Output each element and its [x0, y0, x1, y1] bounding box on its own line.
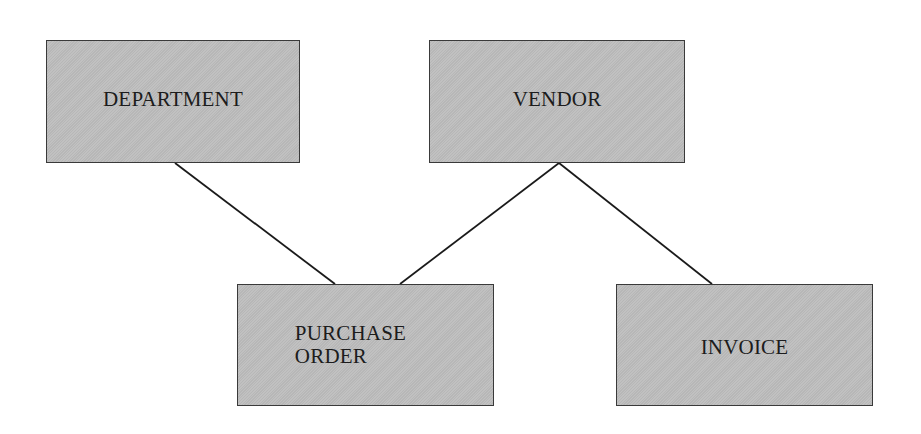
entity-invoice: INVOICE — [616, 284, 873, 406]
link-vendor-purchase-order — [400, 163, 559, 284]
er-diagram: DEPARTMENT VENDOR PURCHASE ORDER INVOICE — [0, 0, 921, 434]
entity-department: DEPARTMENT — [46, 40, 300, 163]
entity-label: DEPARTMENT — [103, 88, 243, 111]
entity-label: INVOICE — [701, 336, 789, 359]
link-vendor-invoice — [559, 163, 712, 284]
entity-vendor: VENDOR — [429, 40, 685, 163]
link-department-purchase-order — [175, 163, 335, 284]
entity-purchase-order: PURCHASE ORDER — [237, 284, 494, 406]
entity-label: PURCHASE ORDER — [295, 322, 406, 368]
entity-label: VENDOR — [513, 88, 602, 111]
